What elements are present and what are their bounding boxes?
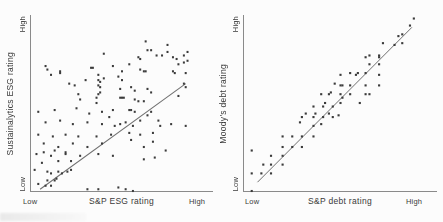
y-axis-title: Moody's debt rating [218, 64, 228, 144]
figure: Sustainalytics ESG rating High Low Low S… [0, 0, 443, 222]
scan-artifact [0, 213, 86, 221]
y-axis-high-label: High [18, 16, 27, 32]
x-axis-high-label: High [189, 197, 205, 206]
y-axis-low-label: Low [18, 177, 27, 191]
y-axis-title-wrap: Sustainalytics ESG rating [4, 15, 16, 192]
debt-plot-area [243, 15, 437, 192]
x-axis-high-label: High [406, 197, 422, 206]
x-axis-title: S&P ESG rating [30, 196, 213, 206]
esg-plot-area [30, 15, 213, 192]
y-axis-high-label: High [231, 16, 240, 32]
y-axis-title: Sustainalytics ESG rating [5, 52, 15, 155]
y-axis-title-wrap: Moody's debt rating [217, 15, 229, 192]
y-axis-low-label: Low [231, 177, 240, 191]
debt-scatter-svg [244, 15, 437, 191]
esg-scatter-svg [31, 15, 213, 191]
